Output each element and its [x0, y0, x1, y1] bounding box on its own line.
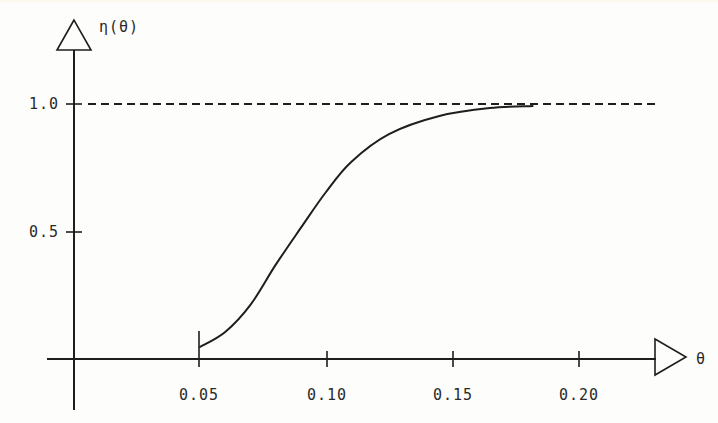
y-tick-label-0-5: 0.5: [29, 223, 59, 241]
y-axis-label: η(θ): [99, 18, 139, 36]
y-axis-arrow-icon: [57, 20, 91, 50]
x-tick-label-0-20: 0.20: [559, 386, 599, 404]
x-tick-label-0-05: 0.05: [179, 386, 219, 404]
y-tick-label-1-0: 1.0: [29, 95, 59, 113]
x-tick-label-0-15: 0.15: [433, 386, 473, 404]
eta-curve: [200, 106, 533, 347]
chart-canvas: η(θ) θ 1.0 0.5 0.05 0.10 0.15 0.20: [0, 0, 718, 423]
x-axis-arrow-icon: [655, 339, 686, 375]
x-axis-label: θ: [696, 350, 706, 368]
chart-figure: η(θ) θ 1.0 0.5 0.05 0.10 0.15 0.20: [0, 0, 718, 423]
x-tick-label-0-10: 0.10: [307, 386, 347, 404]
